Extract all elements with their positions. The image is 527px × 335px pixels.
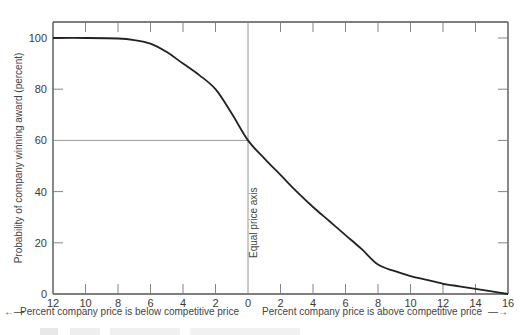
reference-lines [53, 22, 248, 294]
plot-frame [53, 22, 508, 294]
x-label-below: Percent company price is below competiti… [20, 306, 239, 317]
x-axis-direction-labels: ←— Percent company price is below compet… [4, 306, 508, 317]
x-label-above: Percent company price is above competiti… [262, 306, 483, 317]
x-tick-label: 0 [245, 297, 251, 309]
equal-price-axis-label: Equal price axis [248, 187, 259, 258]
y-tick-labels: 020406080100 [29, 32, 47, 300]
right-arrow: —→ [488, 306, 508, 317]
y-tick-label: 40 [35, 186, 47, 198]
y-tick-label: 20 [35, 237, 47, 249]
cropped-figure-caption [40, 328, 460, 335]
y-tick-label: 80 [35, 83, 47, 95]
probability-curve [53, 38, 508, 294]
chart: 121086420246810121416 020406080100 Proba… [0, 0, 527, 335]
y-tick-label: 100 [29, 32, 47, 44]
y-axis-title: Probability of company winning award (pe… [13, 53, 24, 264]
ticks [53, 22, 508, 294]
y-tick-label: 60 [35, 134, 47, 146]
y-tick-label: 0 [41, 288, 47, 300]
